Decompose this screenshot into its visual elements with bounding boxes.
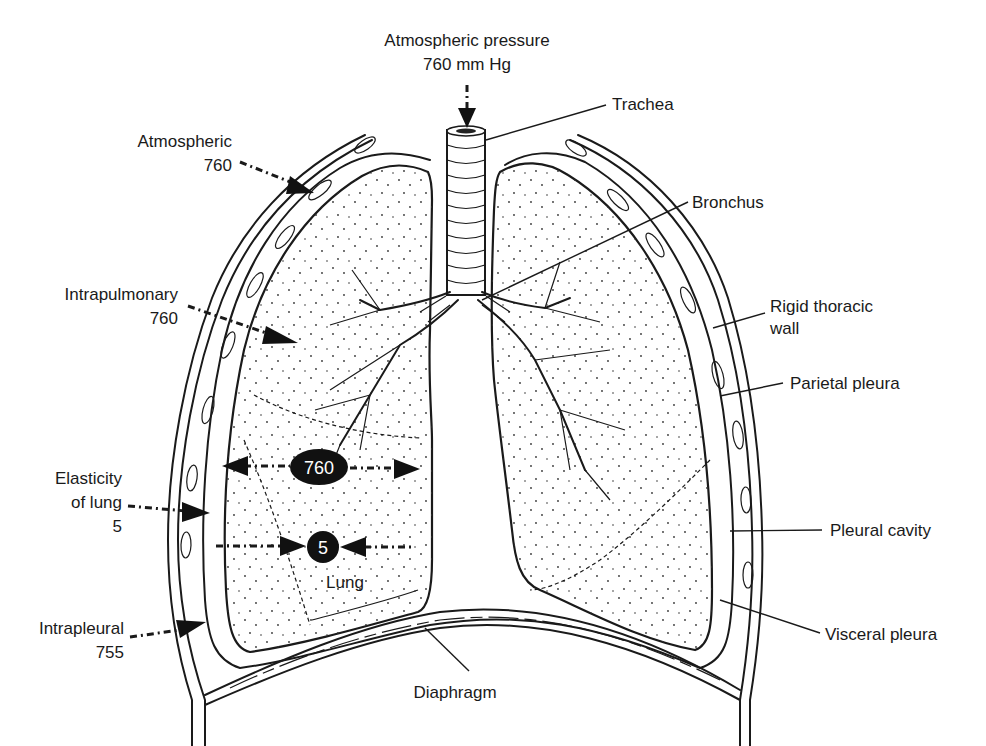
svg-text:5: 5 [318, 538, 328, 558]
lung-pressure-diagram: 760 5 Atmospheric pressure 760 mm Hg Tra… [0, 0, 986, 746]
label-atmospheric-2: 760 [204, 156, 232, 175]
arrow-right-icon [182, 502, 210, 522]
label-atmospheric-1: Atmospheric [138, 132, 233, 151]
label-intrapleural-1: Intrapleural [39, 619, 124, 638]
label-elasticity-3: 5 [113, 517, 122, 536]
label-parietal-pleura: Parietal pleura [790, 374, 900, 393]
trachea [447, 126, 485, 295]
right-lung [492, 163, 712, 650]
label-pleural-cavity: Pleural cavity [830, 521, 932, 540]
label-rigid-wall-1: Rigid thoracic [770, 297, 873, 316]
label-atm-pressure-value: 760 mm Hg [423, 55, 511, 74]
badge-760: 760 [290, 449, 348, 485]
labels: Atmospheric pressure 760 mm Hg Trachea B… [39, 31, 938, 702]
label-intrapulmonary-2: 760 [150, 309, 178, 328]
badge-5: 5 [307, 531, 339, 563]
arrow-right-icon [176, 620, 206, 638]
label-intrapleural-2: 755 [96, 643, 124, 662]
label-diaphragm: Diaphragm [413, 683, 496, 702]
label-elasticity-1: Elasticity [55, 469, 123, 488]
label-bronchus: Bronchus [692, 193, 764, 212]
arrow-down-icon [458, 108, 476, 128]
label-trachea: Trachea [612, 95, 674, 114]
label-lung: Lung [326, 573, 364, 592]
label-intrapulmonary-1: Intrapulmonary [65, 285, 179, 304]
label-visceral-pleura: Visceral pleura [825, 625, 938, 644]
label-rigid-wall-2: wall [769, 319, 799, 338]
svg-text:760: 760 [304, 458, 334, 478]
label-elasticity-2: of lung [71, 493, 122, 512]
label-atm-pressure-title: Atmospheric pressure [384, 31, 549, 50]
